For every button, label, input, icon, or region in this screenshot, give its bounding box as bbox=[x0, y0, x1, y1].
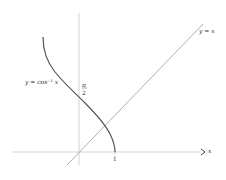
identity-line bbox=[67, 24, 203, 165]
line-label: y = x bbox=[199, 27, 215, 34]
x-axis-label: x bbox=[208, 147, 211, 154]
y-tick-denominator: 2 bbox=[82, 89, 86, 96]
y-tick-numerator: π bbox=[82, 81, 86, 88]
plot-svg bbox=[0, 0, 226, 180]
graph-canvas: y = cos⁻¹ x y = x x 1 π 2 bbox=[0, 0, 226, 180]
x-tick-label: 1 bbox=[113, 155, 117, 162]
curve-label: y = cos⁻¹ x bbox=[25, 78, 58, 85]
